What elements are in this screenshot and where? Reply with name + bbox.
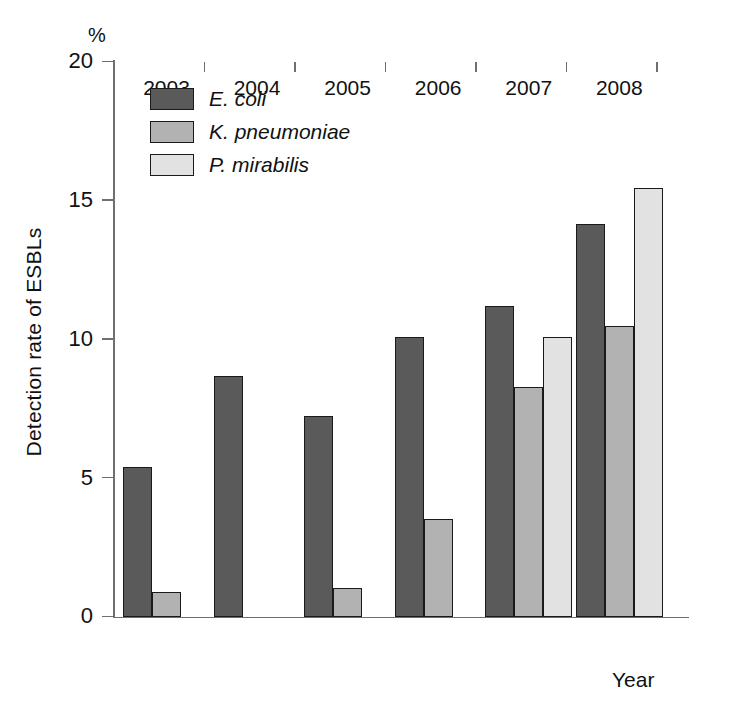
bar — [514, 387, 543, 617]
x-axis-tick-label: 2008 — [596, 76, 643, 100]
bar — [333, 588, 362, 617]
y-axis-tick: 20 — [102, 61, 113, 63]
bar — [424, 519, 453, 618]
legend-label: E. coli — [209, 87, 266, 111]
legend-item: E. coli — [150, 82, 350, 115]
y-axis-tick-label: 5 — [81, 465, 93, 491]
legend-swatch-icon — [150, 154, 194, 176]
x-axis-tick — [656, 62, 658, 72]
x-axis-tick — [294, 62, 296, 72]
bar — [395, 337, 424, 617]
x-axis-title: Year — [612, 668, 654, 692]
bar — [485, 306, 514, 617]
y-axis-tick-label: 20 — [69, 48, 93, 74]
y-axis-tick-label: 10 — [69, 326, 93, 352]
legend-label: K. pneumoniae — [209, 120, 350, 144]
legend-item: K. pneumoniae — [150, 115, 350, 148]
y-axis-tick-label: 0 — [81, 603, 93, 629]
x-axis-tick — [566, 62, 568, 72]
bar — [543, 337, 572, 617]
y-axis-tick: 15 — [102, 199, 113, 201]
y-axis-tick: 5 — [102, 477, 113, 479]
chart-figure: % Detection rate of ESBLs 05101520200320… — [0, 0, 735, 711]
bar — [634, 188, 663, 617]
percent-unit-label: % — [88, 24, 106, 47]
bar — [576, 224, 605, 617]
legend-swatch-icon — [150, 88, 194, 110]
bar — [214, 376, 243, 617]
legend-label: P. mirabilis — [209, 153, 309, 177]
x-axis-tick — [385, 62, 387, 72]
y-axis-tick-label: 15 — [69, 187, 93, 213]
chart-legend: E. coliK. pneumoniaeP. mirabilis — [150, 82, 350, 181]
legend-item: P. mirabilis — [150, 148, 350, 181]
bar — [605, 326, 634, 617]
x-axis-tick — [113, 62, 115, 72]
y-axis-tick: 0 — [102, 616, 113, 618]
legend-swatch-icon — [150, 121, 194, 143]
bar — [304, 416, 333, 617]
x-axis-tick-label: 2006 — [415, 76, 462, 100]
x-axis-tick — [475, 62, 477, 72]
bar — [152, 592, 181, 617]
y-axis-tick: 10 — [102, 338, 113, 340]
y-axis-title: Detection rate of ESBLs — [22, 192, 46, 492]
bar — [123, 467, 152, 617]
x-axis-tick — [204, 62, 206, 72]
x-axis-tick-label: 2007 — [505, 76, 552, 100]
